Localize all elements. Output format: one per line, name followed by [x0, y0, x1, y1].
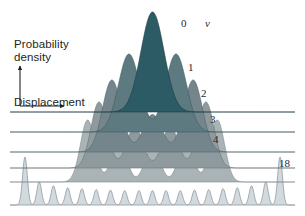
curve-label-v1: 1 [188, 62, 194, 73]
x-axis-label: Displacement [14, 96, 85, 109]
harmonic-oscillator-figure: Probability density Displacement 0v12341… [0, 0, 305, 216]
curve-label-v3: 3 [210, 114, 216, 125]
curves-group [10, 12, 295, 205]
curve-label-v18: 18 [279, 158, 290, 169]
curve-label-v4: 4 [213, 134, 219, 145]
curve-label-v0: 0 [181, 18, 187, 29]
quantum-number-symbol: v [205, 18, 210, 29]
curve-label-v2: 2 [201, 88, 207, 99]
